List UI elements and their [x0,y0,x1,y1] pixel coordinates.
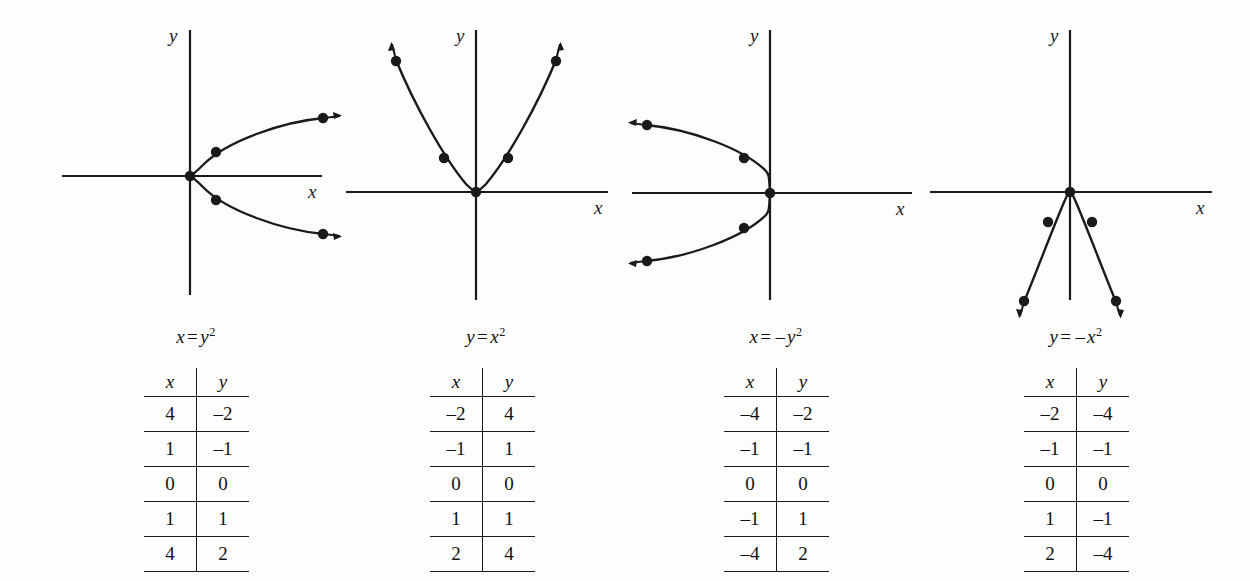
point-1-1 [503,153,513,163]
cell-y: 0 [1077,467,1130,502]
equation-label: y=–x2 [920,326,1232,348]
equation-exponent: 2 [796,325,803,339]
value-table: x y –4–2 –1–1 00 –11 –42 [724,368,829,572]
y-axis-label: y [167,25,178,46]
equation-label: x=–y2 [620,326,932,348]
cell-x: 1 [144,432,197,467]
cell-y: –4 [1077,537,1130,572]
point-origin [185,171,195,181]
cell-x: –1 [430,432,483,467]
x-axis-label: x [1195,197,1205,218]
cell-x: 4 [144,537,197,572]
table-row: –24 [430,397,535,432]
column-header-x: x [144,368,197,397]
cell-y: –1 [777,432,830,467]
equation-rhs-base: x [1087,326,1096,347]
cell-y: –1 [1077,432,1130,467]
point-2-neg4 [1111,296,1121,306]
equation-rhs-base: y [200,326,209,347]
cell-x: 2 [1024,537,1077,572]
equation-exponent: 2 [1096,325,1103,339]
table-header-row: x y [724,368,829,397]
column-header-y: y [777,368,830,397]
x-axis-label: x [593,197,603,218]
cell-y: 4 [483,397,536,432]
table-row: 11 [430,502,535,537]
cell-x: –1 [724,432,777,467]
table-row: 4–2 [144,397,249,432]
table-row: 1–1 [1024,502,1129,537]
column-header-x: x [1024,368,1077,397]
table-row: 42 [144,537,249,572]
value-table: x y –24 –11 00 11 24 [430,368,535,572]
cell-y: –2 [777,397,830,432]
x-axis-label: x [895,198,905,219]
table-row: 2–4 [1024,537,1129,572]
cell-y: –1 [1077,502,1130,537]
table-row: 00 [430,467,535,502]
cell-y: 1 [483,432,536,467]
equation-rhs-base: x [490,326,499,347]
cell-x: –2 [1024,397,1077,432]
point-1-1 [211,147,221,157]
graph-x-equals-negative-y-squared: x y [620,18,932,318]
column-header-y: y [1077,368,1130,397]
equation-lhs: x [749,326,758,347]
table-row: 11 [144,502,249,537]
cell-x: –1 [724,502,777,537]
point-4-neg2 [318,229,328,239]
cell-x: 2 [430,537,483,572]
table-row: –11 [724,502,829,537]
value-table: x y –2–4 –1–1 00 1–1 2–4 [1024,368,1129,572]
cell-x: 0 [724,467,777,502]
parabola-figure: x y x=y2 x y 4–2 1–1 00 11 42 [0,0,1250,581]
graph-x-equals-y-squared: x y [40,18,352,318]
cell-x: 1 [430,502,483,537]
point-origin [471,187,481,197]
table-row: –1–1 [724,432,829,467]
point-neg1-1 [439,153,449,163]
point-origin [1065,187,1075,197]
equation-lhs: x [176,326,185,347]
panel-y-equals-x-squared: x y y=x2 x y –24 –11 00 11 24 [330,0,642,581]
cell-x: 0 [144,467,197,502]
cell-y: 0 [197,467,250,502]
equation-operator: = [185,326,200,347]
cell-y: 0 [777,467,830,502]
cell-y: 2 [197,537,250,572]
table-row: –4–2 [724,397,829,432]
x-axis-label: x [307,181,317,202]
point-neg2-neg4 [1019,296,1029,306]
cell-y: 1 [777,502,830,537]
cell-y: 0 [483,467,536,502]
equation-exponent: 2 [209,325,216,339]
cell-x: 1 [144,502,197,537]
cell-y: –2 [197,397,250,432]
table-row: 1–1 [144,432,249,467]
table-header-row: x y [1024,368,1129,397]
equation-lhs: y [466,326,475,347]
table-row: 24 [430,537,535,572]
point-2-4 [551,56,561,66]
cell-y: 2 [777,537,830,572]
point-1-neg1 [1087,217,1097,227]
point-1-neg1 [211,195,221,205]
equation-operator: = [475,326,490,347]
panel-x-equals-y-squared: x y x=y2 x y 4–2 1–1 00 11 42 [40,0,352,581]
cell-y: –1 [197,432,250,467]
y-axis-label: y [1048,25,1059,46]
table-row: –42 [724,537,829,572]
cell-y: 4 [483,537,536,572]
point-neg4-neg2 [642,120,652,130]
cell-y: 1 [483,502,536,537]
point-neg1-neg1 [1043,217,1053,227]
cell-y: 1 [197,502,250,537]
column-header-y: y [483,368,536,397]
cell-x: 1 [1024,502,1077,537]
equation-operator: = [758,326,773,347]
equation-minus-sign: – [774,326,788,347]
table-row: 00 [1024,467,1129,502]
table-header-row: x y [144,368,249,397]
table-row: –11 [430,432,535,467]
equation-rhs-base: y [787,326,796,347]
